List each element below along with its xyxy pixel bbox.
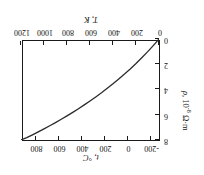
y-axis-tick-label: 0 bbox=[164, 36, 168, 44]
secondary-x-axis-tick bbox=[81, 136, 82, 140]
x-axis-tick bbox=[89, 41, 90, 45]
rotated-figure-group: t, °C T, K ρ, 10-8 Ω·m 02004006008001000… bbox=[0, 0, 204, 175]
secondary-x-axis-tick-label: 0 bbox=[127, 144, 131, 152]
secondary-x-axis-tick bbox=[104, 136, 105, 140]
secondary-x-axis-tick bbox=[150, 136, 151, 140]
x-axis-tick-label: 1200 bbox=[14, 28, 30, 36]
x-axis-tick-label: 800 bbox=[62, 28, 74, 36]
y-axis-tick bbox=[155, 89, 159, 90]
x-axis-tick bbox=[20, 41, 21, 45]
secondary-x-axis-tick bbox=[35, 136, 36, 140]
y-axis-tick-label: 8 bbox=[164, 137, 168, 145]
x-axis-tick-label: 0 bbox=[158, 28, 162, 36]
y-axis-tick-label: 2 bbox=[164, 61, 168, 69]
plot-area bbox=[22, 40, 160, 141]
x-axis-tick bbox=[112, 41, 113, 45]
figure-canvas: t, °C T, K ρ, 10-8 Ω·m 02004006008001000… bbox=[0, 0, 204, 175]
y-axis-tick bbox=[155, 63, 159, 64]
x-axis-tick-label: 600 bbox=[85, 28, 97, 36]
y-axis-tick-label: 4 bbox=[164, 87, 168, 95]
secondary-x-axis-tick-label: 400 bbox=[77, 144, 89, 152]
secondary-x-axis-tick-label: -200 bbox=[144, 144, 159, 152]
x-axis-tick-label: 200 bbox=[131, 28, 143, 36]
secondary-x-axis-tick bbox=[127, 136, 128, 140]
secondary-x-axis-title-text: t, °C bbox=[83, 153, 99, 163]
secondary-x-axis-tick bbox=[58, 136, 59, 140]
x-axis-title: T, K bbox=[84, 15, 98, 25]
y-axis-title-units: Ω·m bbox=[181, 113, 191, 131]
y-axis-title-sep: , 10 bbox=[181, 95, 191, 108]
y-axis-tick bbox=[155, 114, 159, 115]
x-axis-tick bbox=[135, 41, 136, 45]
y-axis-tick bbox=[155, 38, 159, 39]
x-axis-tick-label: 400 bbox=[108, 28, 120, 36]
y-axis-title: ρ, 10-8 Ω·m bbox=[181, 91, 192, 131]
x-axis-tick bbox=[43, 41, 44, 45]
x-axis-tick bbox=[66, 41, 67, 45]
x-axis-tick-label: 1000 bbox=[37, 28, 53, 36]
secondary-x-axis-title: t, °C bbox=[83, 153, 99, 163]
secondary-x-axis-tick-label: 600 bbox=[54, 144, 66, 152]
secondary-x-axis-tick-label: 800 bbox=[31, 144, 43, 152]
y-axis-tick-label: 6 bbox=[164, 112, 168, 120]
resistivity-curve-path bbox=[21, 39, 159, 140]
x-axis-tick bbox=[158, 41, 159, 45]
y-axis-tick bbox=[155, 139, 159, 140]
x-axis-title-text: T, K bbox=[84, 15, 98, 25]
resistivity-curve bbox=[21, 39, 159, 140]
secondary-x-axis-tick-label: 200 bbox=[100, 144, 112, 152]
